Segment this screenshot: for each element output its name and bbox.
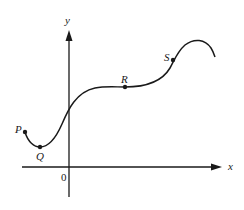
point-r-dot <box>123 85 127 89</box>
origin-label: 0 <box>61 172 67 183</box>
point-p-label: P <box>15 124 22 135</box>
point-q-label: Q <box>36 151 44 162</box>
point-s-dot <box>171 58 175 62</box>
function-graph-diagram: y x 0 P Q R S <box>0 0 244 210</box>
x-axis-label: x <box>228 161 233 172</box>
point-p-dot <box>23 130 27 134</box>
point-r-label: R <box>121 74 128 85</box>
y-axis-label: y <box>65 15 70 26</box>
x-axis-arrow-icon <box>211 164 222 171</box>
point-q-dot <box>38 145 42 149</box>
function-curve <box>25 40 215 147</box>
graph-svg <box>0 0 244 210</box>
point-s-label: S <box>164 52 170 63</box>
y-axis-arrow-icon <box>66 30 73 41</box>
